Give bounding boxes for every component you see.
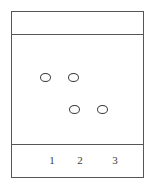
marker-row1-col1 <box>40 73 51 82</box>
marker-row2-col3 <box>97 105 108 114</box>
column-label-1: 1 <box>45 154 59 167</box>
marker-row2-col2 <box>69 105 80 114</box>
figure-root: 1 2 3 <box>0 0 153 192</box>
diagram-frame: 1 2 3 <box>11 11 144 178</box>
column-label-band: 1 2 3 <box>12 145 143 178</box>
header-band <box>12 12 143 35</box>
column-label-2: 2 <box>73 154 87 167</box>
marker-row1-col2 <box>68 73 79 82</box>
column-label-3: 3 <box>108 154 122 167</box>
plot-area <box>12 35 143 145</box>
